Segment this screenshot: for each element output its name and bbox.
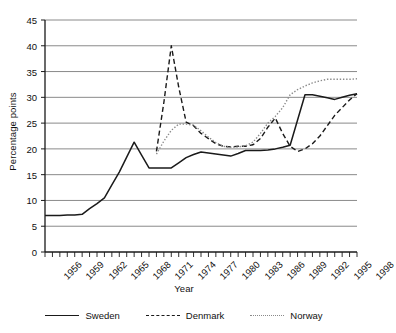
x-tick-label: 1986 — [284, 259, 307, 282]
x-tick-label: 1980 — [239, 259, 262, 282]
x-axis-title: Year — [0, 283, 368, 294]
legend-label-norway: Norway — [290, 310, 322, 321]
chart-legend: Sweden Denmark Norway — [0, 305, 368, 325]
x-tick-label: 1956 — [61, 259, 84, 282]
x-tick-label: 1965 — [128, 259, 151, 282]
legend-swatch-dotted-icon — [250, 311, 284, 319]
x-tick-label: 1989 — [306, 259, 329, 282]
x-tick-label: 1998 — [373, 259, 396, 282]
x-tick-label: 1971 — [173, 259, 196, 282]
y-axis-title: Percentage points — [7, 57, 18, 207]
x-tick-label: 1959 — [83, 259, 106, 282]
x-tick-label: 1974 — [195, 259, 218, 282]
legend-swatch-dashed-icon — [146, 311, 180, 319]
x-tick-label: 1995 — [351, 259, 374, 282]
legend-swatch-solid-icon — [45, 311, 79, 319]
legend-item-denmark: Denmark — [146, 310, 225, 321]
x-tick-label: 1983 — [262, 259, 285, 282]
legend-label-sweden: Sweden — [85, 310, 119, 321]
legend-item-norway: Norway — [250, 310, 322, 321]
x-tick-label: 1968 — [150, 259, 173, 282]
x-tick-label: 1962 — [106, 259, 129, 282]
x-tick-label: 1977 — [217, 259, 240, 282]
x-tick-label: 1992 — [329, 259, 352, 282]
legend-item-sweden: Sweden — [45, 310, 119, 321]
legend-label-denmark: Denmark — [186, 310, 225, 321]
